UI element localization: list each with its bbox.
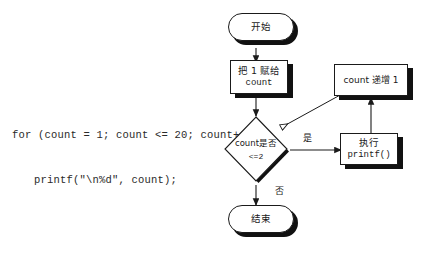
increment-node-label: count 递增 1: [344, 74, 399, 86]
printf-node: 执行 printf(): [340, 133, 398, 165]
flowchart-figure: for (count = 1; count <= 20; count++) pr…: [0, 0, 421, 254]
printf-node-line2: printf(): [347, 149, 390, 161]
assign-node-line1: 把 1 赋给: [238, 65, 280, 77]
assign-node: 把 1 赋给 count: [230, 60, 288, 94]
decision-node-shape: [221, 115, 291, 185]
edge-label-no: 否: [275, 184, 284, 197]
printf-node-line1: 执行: [359, 137, 379, 149]
start-node-label: 开始: [251, 21, 271, 33]
end-node: 结束: [228, 205, 294, 233]
end-node-label: 结束: [251, 213, 271, 225]
increment-node: count 递增 1: [334, 64, 408, 96]
decision-node: count是否 <=2: [221, 115, 291, 185]
edge-label-yes: 是: [303, 131, 312, 144]
flow-connectors: [0, 0, 421, 254]
edge-increment-to-decision: [282, 94, 342, 127]
assign-node-line2: count: [245, 77, 272, 89]
start-node: 开始: [228, 13, 294, 41]
